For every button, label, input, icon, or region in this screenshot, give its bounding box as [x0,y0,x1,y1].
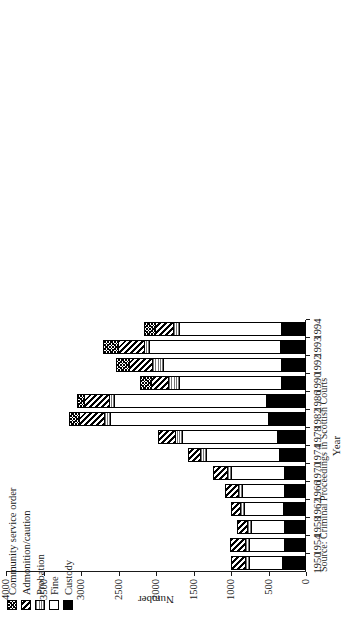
category-axis-tick [306,319,310,320]
plot-area: 05001000150020002500300035004000 1950195… [6,320,306,572]
bar-segment-probation [175,430,183,443]
bar-segment-fine [149,340,280,353]
bar-segment-custody [284,520,307,533]
bar-segment-admonition-caution [79,412,104,425]
category-axis-tick-label: 1992 [313,355,323,376]
category-axis-tick [306,553,310,554]
stacked-bar[interactable] [231,556,306,569]
bar-segment-admonition-caution [118,340,144,353]
bar-segment-custody [266,394,307,407]
bar-segment-custody [281,358,307,371]
bar-segment-admonition-caution [84,394,109,407]
value-axis-tick-label: 500 [264,579,274,595]
bar-segment-probation [104,412,111,425]
stacked-bar[interactable] [158,430,307,443]
legend-swatch-probation [35,600,45,610]
stacked-bar[interactable] [69,412,306,425]
value-axis-tick-label: 3000 [76,579,86,600]
bar-segment-admonition-caution [231,556,245,569]
bar-segment-admonition-caution [151,376,168,389]
category-axis-tick [306,463,310,464]
bar-segment-fine [231,466,284,479]
bar-segment-admonition-caution [129,358,152,371]
value-axis-tick-label: 3500 [39,579,49,600]
value-axis-tick-label: 4000 [1,579,11,600]
legend-swatch-admonition-caution [21,600,31,610]
source-note: Source: Criminal Proceedings in Scottish… [318,378,329,572]
bar-segment-fine [249,538,284,551]
category-axis-tick [306,535,310,536]
value-axis-tick [269,572,270,576]
bar-segment-fine [249,556,282,569]
bar-segment-custody [282,556,306,569]
value-axis-tick-label: 1000 [226,579,236,600]
category-axis-tick [306,445,310,446]
bar-segment-fine [182,430,277,443]
value-axis-tick [81,572,82,576]
value-axis-tick [194,572,195,576]
bar-segment-community-service-order [77,394,84,407]
category-axis-tick [306,391,310,392]
bar-segment-admonition-caution [230,538,245,551]
bar-segment-community-service-order [140,376,151,389]
bar-segment-custody [281,322,306,335]
bar-segment-fine [110,412,268,425]
value-axis-title: Number [138,594,174,606]
stacked-bar[interactable] [103,340,306,353]
legend-swatch-community-service-order [7,600,17,610]
bar-segment-fine [179,322,281,335]
category-axis-tick-label: 1993 [313,337,323,358]
bar-segment-probation [168,376,179,389]
source-label: Source: [318,541,329,572]
value-axis-tick [231,572,232,576]
bar-segment-admonition-caution [231,502,240,515]
bar-segment-custody [283,502,306,515]
category-axis-tick [306,427,310,428]
stacked-bar[interactable] [77,394,306,407]
bar-segment-fine [242,484,284,497]
stacked-bar[interactable] [213,466,306,479]
bar-segment-fine [206,448,280,461]
bar-segment-admonition-caution [237,520,247,533]
legend-swatch-custody [63,600,73,610]
stacked-bar[interactable] [140,376,306,389]
bar-segment-custody [284,466,307,479]
category-axis-tick [306,517,310,518]
value-axis-tick-label: 2500 [114,579,124,600]
category-axis-tick [306,481,310,482]
legend-label: Fine [49,576,60,595]
source-text: Criminal Proceedings in Scottish Courts [318,378,329,539]
bar-segment-admonition-caution [188,448,200,461]
bar-segment-admonition-caution [213,466,227,479]
bar-segment-fine [251,520,284,533]
bar-segment-community-service-order [69,412,79,425]
stacked-bar[interactable] [188,448,306,461]
stacked-bar[interactable] [116,358,307,371]
stacked-bar[interactable] [237,520,306,533]
bar-segment-fine [244,502,283,515]
stacked-bar[interactable] [230,538,307,551]
value-axis-tick [119,572,120,576]
legend-swatch-fine [49,600,59,610]
bar-segment-custody [280,340,306,353]
bar-segment-fine [179,376,281,389]
stacked-bar[interactable] [231,502,306,515]
value-axis-tick [156,572,157,576]
bar-segment-custody [281,376,306,389]
stacked-bar[interactable] [225,484,306,497]
bar-segment-community-service-order [144,322,155,335]
category-axis-tick [306,355,310,356]
bar-segment-fine [114,394,266,407]
bar-segment-fine [163,358,281,371]
bar-segment-custody [279,448,306,461]
bar-segment-custody [284,484,306,497]
stacked-bar[interactable] [144,322,306,335]
value-axis-tick-label: 0 [301,579,311,584]
value-axis-tick [44,572,45,576]
bar-segment-custody [268,412,306,425]
bar-segment-custody [277,430,306,443]
value-axis-tick [6,572,7,576]
category-axis-tick [306,373,310,374]
